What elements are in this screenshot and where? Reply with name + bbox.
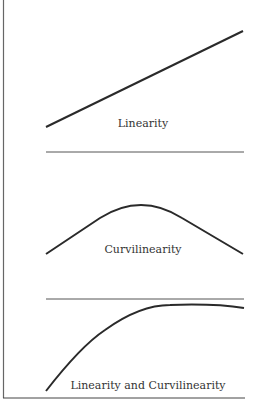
- panel-curvilinearity: Curvilinearity: [46, 205, 243, 256]
- panel-label-linearity-and-curvilinearity: Linearity and Curvilinearity: [70, 379, 226, 392]
- panel-label-curvilinearity: Curvilinearity: [104, 243, 182, 256]
- panel-linearity-and-curvilinearity: Linearity and Curvilinearity: [46, 305, 244, 392]
- linear-curve: [46, 31, 243, 127]
- panel-label-linearity: Linearity: [118, 117, 169, 130]
- figure-canvas: Linearity Curvilinearity Linearity and C…: [0, 0, 262, 415]
- panel-linearity: Linearity: [46, 31, 243, 130]
